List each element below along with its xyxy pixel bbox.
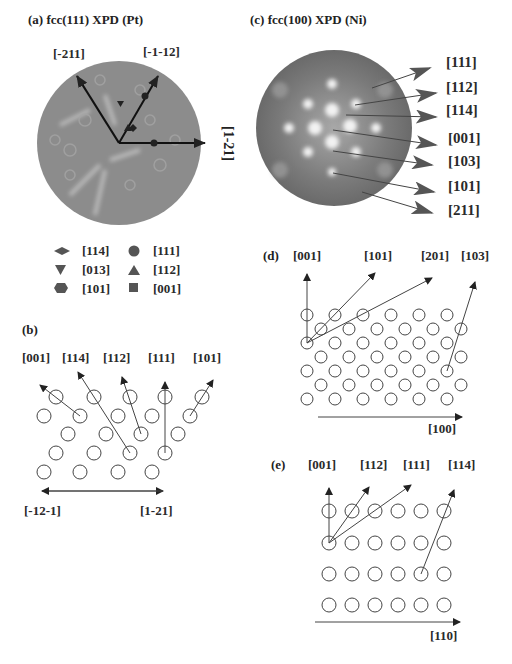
panel-e-title: (e)	[271, 457, 285, 473]
direction-label-111-e: [111]	[403, 457, 430, 473]
ni-xpd-pattern	[256, 50, 436, 213]
direction-label-111: [111]	[148, 350, 175, 366]
legend-label-112: [112]	[153, 262, 180, 278]
axis-label-minus1minus12: [-1-12]	[143, 44, 180, 60]
direction-label-211-c: [211]	[448, 202, 480, 219]
axis-label-minus211: [-211]	[53, 46, 85, 62]
legend-label-114: [114]	[82, 243, 109, 259]
pt-xpd-pattern	[37, 61, 205, 225]
panel-d-title: (d)	[263, 248, 279, 264]
legend-label-001: [001]	[153, 281, 181, 297]
direction-label-114: [114]	[62, 350, 89, 366]
lattice-111	[37, 372, 213, 491]
direction-label-103-d: [103]	[461, 248, 489, 264]
direction-label-001-d: [001]	[293, 248, 321, 264]
direction-label-112-e: [112]	[360, 457, 387, 473]
legend-label-101: [101]	[82, 281, 110, 297]
triangle-up-icon	[128, 265, 140, 275]
square-icon	[129, 283, 138, 292]
direction-label-101-c: [101]	[448, 178, 481, 195]
direction-label-114-c: [114]	[446, 102, 478, 119]
legend-label-013: [013]	[82, 262, 110, 278]
direction-label-114-e: [114]	[448, 457, 475, 473]
direction-label-101: [101]	[193, 350, 221, 366]
panel-b-title: (b)	[22, 322, 38, 338]
direction-label-112-c: [112]	[446, 79, 478, 96]
axis-label-minus12minus1: [-12-1]	[24, 503, 61, 519]
direction-label-001-e: [001]	[308, 457, 336, 473]
direction-label-111-c: [111]	[446, 54, 477, 71]
diamond-icon	[54, 247, 70, 255]
direction-label-103-c: [103]	[448, 153, 481, 170]
triangle-down-icon	[55, 265, 66, 275]
direction-label-001-c: [001]	[448, 130, 481, 147]
direction-label-112: [112]	[103, 350, 130, 366]
axis-label-1minus21-b: [1-21]	[140, 503, 173, 519]
circle-icon	[129, 246, 140, 257]
hexagon-icon	[54, 283, 68, 293]
lattice-110	[315, 485, 460, 622]
direction-label-201-d: [201]	[421, 248, 449, 264]
axis-label-100: [100]	[428, 421, 456, 437]
direction-label-001: [001]	[22, 350, 50, 366]
lattice-100	[301, 273, 475, 417]
panel-a-title: (a) fcc(111) XPD (Pt)	[28, 12, 143, 28]
legend-label-111: [111]	[153, 243, 180, 259]
figure-canvas	[0, 0, 512, 664]
direction-label-101-d: [101]	[364, 248, 392, 264]
axis-label-1minus21: [1-21]	[220, 126, 236, 161]
panel-c-title: (c) fcc(100) XPD (Ni)	[250, 12, 367, 28]
axis-label-110: [110]	[430, 628, 457, 644]
